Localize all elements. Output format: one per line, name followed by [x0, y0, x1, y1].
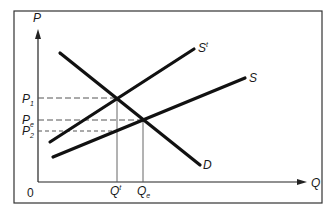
supply-tax-label: St — [198, 41, 209, 55]
x-axis-arrow-icon — [297, 179, 307, 185]
supply-demand-diagram: P Q 0 P1 Pe P2 Qt Qe D S St — [0, 0, 331, 212]
quantity-label-qe: Qe — [137, 184, 150, 199]
y-axis-label: P — [33, 11, 41, 25]
quantity-label-qt: Qt — [110, 184, 122, 198]
y-axis-arrow-icon — [35, 29, 41, 39]
supply-curve — [53, 78, 245, 157]
supply-label: S — [249, 71, 257, 85]
frame — [14, 11, 322, 203]
price-label-p1: P1 — [22, 92, 34, 107]
x-axis-label: Q — [311, 176, 320, 190]
origin-label: 0 — [27, 186, 34, 200]
demand-curve — [60, 53, 200, 165]
demand-label: D — [203, 158, 212, 172]
